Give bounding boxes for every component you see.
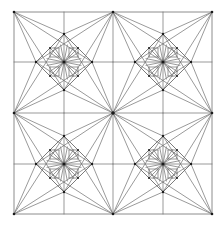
vertex-dot <box>49 47 51 49</box>
vertex-dot <box>211 11 214 14</box>
vertex-dot <box>77 75 79 77</box>
vertex-dot <box>176 75 178 77</box>
vertex-dot <box>148 149 150 151</box>
vertex-dot <box>161 60 164 63</box>
vertex-dot <box>35 61 37 63</box>
vertex-dot <box>63 135 65 137</box>
vertex-dot <box>91 163 93 165</box>
vertex-dot <box>162 33 164 35</box>
crease-pattern-diagram <box>0 0 223 230</box>
vertex-dot <box>49 177 51 179</box>
vertex-dot <box>13 112 16 115</box>
vertex-dot <box>63 191 65 193</box>
vertex-dot <box>63 89 65 91</box>
vertex-dot <box>62 162 65 165</box>
vertex-dot <box>176 149 178 151</box>
vertex-dot <box>148 177 150 179</box>
vertex-dot <box>190 163 192 165</box>
vertex-dot <box>35 163 37 165</box>
vertex-dot <box>148 75 150 77</box>
vertex-dot <box>211 213 214 216</box>
vertex-dot <box>77 177 79 179</box>
vertex-dot <box>111 111 115 115</box>
vertex-dot <box>62 60 65 63</box>
vertex-dot <box>77 149 79 151</box>
vertex-dot <box>77 47 79 49</box>
vertex-dot <box>49 75 51 77</box>
vertex-dot <box>134 163 136 165</box>
vertex-dot <box>63 33 65 35</box>
vertex-dot <box>13 11 16 14</box>
vertex-dot <box>134 61 136 63</box>
vertex-dot <box>162 135 164 137</box>
vertex-dot <box>176 47 178 49</box>
vertex-dot <box>161 162 164 165</box>
vertex-dot <box>162 89 164 91</box>
vertex-dot <box>148 47 150 49</box>
vertex-dot <box>91 61 93 63</box>
vertex-dot <box>112 213 115 216</box>
vertex-dot <box>176 177 178 179</box>
vertex-dot <box>162 191 164 193</box>
vertex-dot <box>49 149 51 151</box>
vertex-dot <box>13 213 16 216</box>
vertex-dot <box>211 112 214 115</box>
vertex-dot <box>112 11 115 14</box>
vertex-dot <box>190 61 192 63</box>
